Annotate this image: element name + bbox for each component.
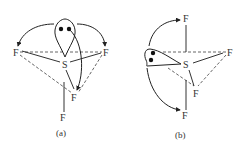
arrow-to-right-f [77,24,105,46]
bond-s-f-front [66,70,74,89]
atom-s: S [183,59,189,70]
atom-f-bottom: F [60,112,66,123]
electron-dot [151,51,155,55]
atom-s: S [62,59,68,70]
caption-a: (a) [56,128,66,138]
atom-f-left: F [13,47,19,58]
atom-f-right: F [227,47,233,58]
arrow-to-top-f [149,20,180,46]
atom-f-bottom: F [182,110,188,121]
bond-s-f-left [22,51,60,62]
electron-dot [149,58,153,62]
bond-s-f-right [70,53,101,62]
lone-pair-lobe [55,19,75,57]
arrow-to-bottom-f [147,68,180,110]
atom-f-front: F [71,92,77,103]
atom-f-front: F [193,88,199,99]
panel-a: S F F F F (a) [13,19,109,138]
panel-b: S F F F F (b) [145,13,233,140]
sf4-pseudorotation-diagram: S F F F F (a) S F F F F (b) [0,0,245,149]
caption-b: (b) [175,130,186,140]
arrow-to-left-f [18,24,54,46]
bond-s-f-right [193,53,223,63]
dashed-edge [168,68,194,86]
atom-f-top: F [183,13,189,24]
electron-dot [59,27,63,31]
atom-f-right: F [103,47,109,58]
